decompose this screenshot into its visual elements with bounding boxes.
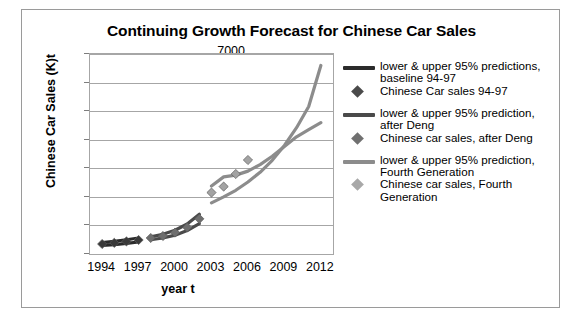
data-point-marker (231, 169, 240, 178)
legend-entry[interactable]: Chinese Car sales 94-97 (340, 85, 559, 98)
legend-label: Chinese Car sales 94-97 (380, 85, 559, 97)
legend-entry[interactable]: Chinese car sales, Fourth Generation (340, 178, 559, 203)
chart-frame: Continuing Growth Forecast for Chinese C… (21, 9, 560, 308)
y-axis-title: Chinese Car Sales (K)t (44, 26, 58, 216)
legend-entry[interactable]: lower & upper 95% predictions, baseline … (340, 60, 559, 85)
data-point-marker (219, 182, 228, 191)
legend-label: lower & upper 95% predictions, baseline … (380, 60, 559, 85)
data-point-marker (207, 188, 216, 197)
series-line (212, 123, 321, 186)
legend-diamond-marker-icon (351, 178, 364, 191)
series-layer (90, 54, 333, 254)
legend-label: Chinese car sales, Fourth Generation (380, 178, 559, 203)
legend-entry[interactable]: lower & upper 95% prediction, after Deng (340, 107, 559, 132)
series-line (212, 65, 321, 202)
legend-label: Chinese car sales, after Deng (380, 132, 559, 144)
chart-title: Continuing Growth Forecast for Chinese C… (22, 22, 561, 40)
legend-entry[interactable]: lower & upper 95% prediction, Fourth Gen… (340, 154, 559, 179)
legend-diamond-marker-icon (351, 132, 364, 145)
legend-line-swatch (343, 160, 375, 164)
legend-line-swatch (343, 66, 375, 70)
legend-label: lower & upper 95% prediction, after Deng (380, 107, 559, 132)
legend-line-swatch (343, 113, 375, 117)
data-point-marker (243, 155, 252, 164)
legend-entry[interactable]: Chinese car sales, after Deng (340, 132, 559, 145)
legend-diamond-marker-icon (351, 85, 364, 98)
legend-label: lower & upper 95% prediction, Fourth Gen… (380, 154, 559, 179)
chart-legend: lower & upper 95% predictions, baseline … (340, 60, 559, 203)
plot-area (89, 53, 334, 255)
x-axis-title: year t (22, 282, 334, 296)
x-tick-label: 2012 (297, 260, 343, 274)
